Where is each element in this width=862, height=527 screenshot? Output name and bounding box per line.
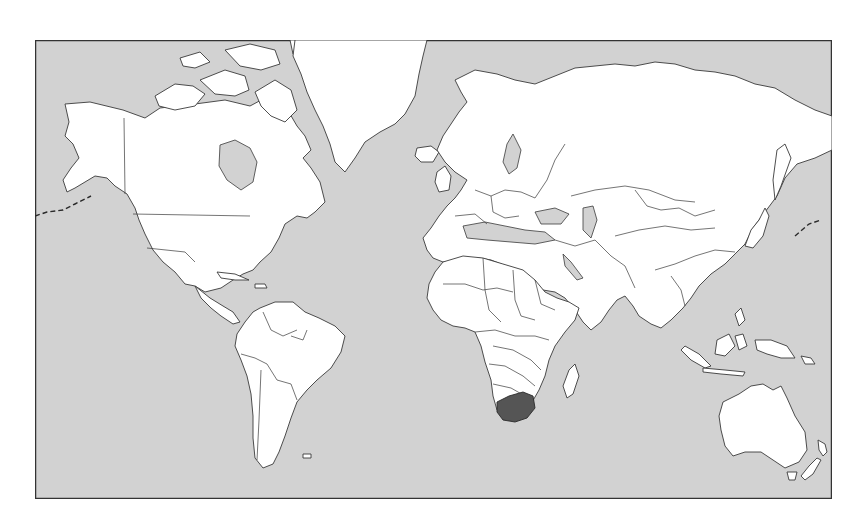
world-map (35, 40, 832, 499)
map-canvas (35, 40, 832, 499)
